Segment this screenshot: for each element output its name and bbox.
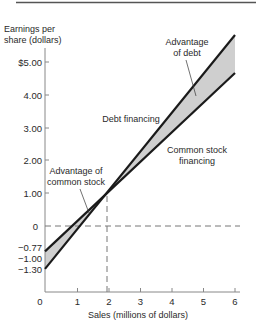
y-axis-label-line2: share (dollars) bbox=[4, 35, 62, 45]
y-tick-label: $5.00 bbox=[18, 57, 42, 68]
x-tick-label: 1 bbox=[75, 296, 80, 307]
y-tick-label: 4.00 bbox=[24, 90, 43, 101]
y-tick-label: 2.00 bbox=[24, 155, 43, 166]
x-tick-label: 2 bbox=[106, 296, 111, 307]
common-stock-financing-label-line1: Common stock bbox=[167, 145, 228, 155]
advantage-of-debt-label-line2: of debt bbox=[173, 48, 201, 58]
x-tick-label: 6 bbox=[232, 296, 237, 307]
y-tick-label: −1.00 bbox=[18, 253, 42, 264]
x-tick-label: 5 bbox=[201, 296, 206, 307]
eps-chart: Earnings per share (dollars) $5.00 4.00 … bbox=[0, 0, 256, 334]
x-tick-label: 3 bbox=[138, 296, 143, 307]
advantage-of-common-stock-leader bbox=[80, 189, 89, 213]
x-tick-label: 4 bbox=[169, 296, 174, 307]
y-tick-label: −1.30 bbox=[18, 264, 42, 275]
advantage-of-common-stock-label-line1: Advantage of bbox=[49, 166, 103, 176]
y-tick-label: 0 bbox=[33, 221, 38, 232]
advantage-of-common-stock-label-line2: common stock bbox=[47, 177, 106, 187]
y-tick-label: −0.77 bbox=[18, 242, 42, 253]
y-axis-label-line1: Earnings per bbox=[4, 24, 55, 34]
debt-financing-label: Debt financing bbox=[102, 114, 160, 124]
x-tick-label: 0 bbox=[37, 296, 42, 307]
common-stock-financing-label-line2: financing bbox=[179, 156, 215, 166]
x-ticks bbox=[78, 288, 236, 292]
y-tick-label: 3.00 bbox=[24, 123, 43, 134]
x-axis-label: Sales (millions of dollars) bbox=[88, 310, 188, 320]
y-tick-label: 1.00 bbox=[24, 188, 43, 199]
advantage-of-debt-label-line1: Advantage bbox=[165, 37, 208, 47]
y-ticks bbox=[45, 62, 49, 193]
